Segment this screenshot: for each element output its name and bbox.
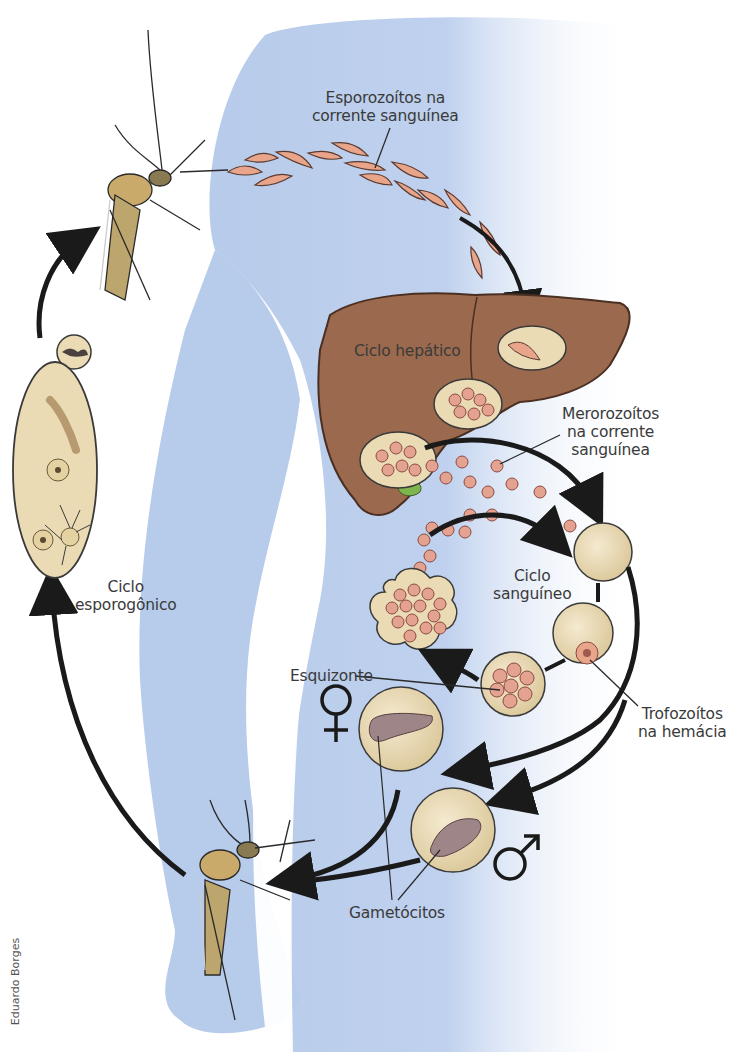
label-sporozoites-line2: corrente sanguínea	[312, 107, 459, 125]
label-gametocytes: Gametócitos	[349, 904, 445, 922]
label-hepatic-cycle: Ciclo hepático	[354, 342, 461, 360]
image-credit: Eduardo Borges	[9, 927, 22, 1037]
label-sporogonic-cycle: Ciclo esporogônico	[75, 578, 177, 614]
mosquito-top	[100, 30, 205, 300]
label-merozoites-line2: na corrente	[562, 423, 659, 441]
label-merozoites: Merorozoítos na corrente sanguínea	[562, 405, 659, 459]
label-sporozoites: Esporozoítos na corrente sanguínea	[312, 89, 459, 125]
label-trophozoites-line1: Trofozoítos	[638, 705, 727, 723]
label-blood-cycle: Ciclo sanguíneo	[493, 567, 571, 603]
label-schizont: Esquizonte	[290, 667, 373, 685]
label-sporogonic-cycle-line2: esporogônico	[75, 596, 177, 614]
label-trophozoites-line2: na hemácia	[638, 723, 727, 741]
oocyst	[13, 335, 97, 578]
label-trophozoites: Trofozoítos na hemácia	[638, 705, 727, 741]
label-blood-cycle-line1: Ciclo	[493, 567, 571, 585]
label-sporogonic-cycle-line1: Ciclo	[75, 578, 177, 596]
label-sporozoites-line1: Esporozoítos na	[312, 89, 459, 107]
label-merozoites-line1: Merorozoítos	[562, 405, 659, 423]
label-merozoites-line3: sanguínea	[562, 441, 659, 459]
label-blood-cycle-line2: sanguíneo	[493, 585, 571, 603]
malaria-life-cycle-diagram: Esporozoítos na corrente sanguínea Ciclo…	[0, 0, 753, 1052]
